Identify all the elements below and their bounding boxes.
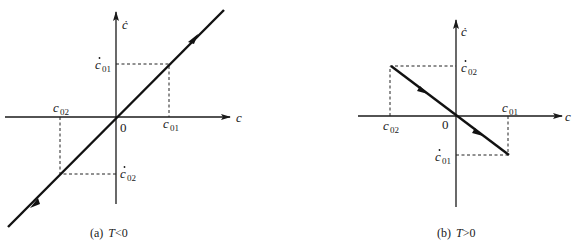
svg-text:c: c	[435, 149, 441, 164]
svg-text:01: 01	[102, 64, 111, 74]
caption-b: (b)T>0	[437, 226, 475, 240]
label-c01: c 01	[163, 116, 179, 133]
label-c02: c 02	[383, 118, 399, 135]
svg-text:c: c	[95, 57, 101, 72]
svg-text:02: 02	[60, 107, 69, 117]
origin-label: 0	[442, 117, 449, 132]
label-cdot02: c 02	[120, 166, 136, 183]
svg-text:c: c	[120, 166, 126, 181]
y-axis-label: ċ	[461, 24, 467, 39]
x-axis-label: c	[565, 109, 571, 124]
svg-text:c: c	[461, 60, 467, 75]
svg-text:02: 02	[127, 173, 136, 183]
phase-plane-diagram: c ċ 0 c 01 c 01 c 02 c 02 (a)T	[0, 0, 581, 249]
svg-text:01: 01	[442, 156, 451, 166]
label-cdot01: c 01	[95, 57, 111, 74]
svg-text:01: 01	[509, 107, 518, 117]
y-axis-label: ċ	[122, 17, 128, 32]
svg-text:c: c	[383, 118, 389, 133]
origin-label: 0	[120, 120, 127, 135]
label-c02: c 02	[53, 100, 69, 117]
svg-text:01: 01	[170, 123, 179, 133]
label-cdot02: c 02	[461, 60, 477, 77]
label-c01: c 01	[502, 100, 518, 117]
svg-text:02: 02	[468, 67, 477, 77]
svg-text:c: c	[163, 116, 169, 131]
panel-b: c ċ 0 c 02 c 01 c 02 c 01 (b)T	[358, 20, 571, 240]
svg-text:c: c	[53, 100, 59, 115]
trajectory-line	[391, 66, 509, 155]
svg-text:02: 02	[390, 125, 399, 135]
caption-a: (a)T<0	[90, 226, 128, 240]
x-axis-label: c	[236, 110, 242, 125]
panel-a: c ċ 0 c 01 c 01 c 02 c 02 (a)T	[5, 10, 242, 240]
label-cdot01: c 01	[435, 149, 451, 166]
svg-text:c: c	[502, 100, 508, 115]
